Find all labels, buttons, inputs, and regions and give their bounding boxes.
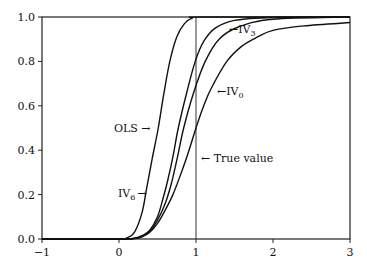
ols-label: OLS → xyxy=(114,122,151,135)
y-tick-label: 0.6 xyxy=(18,100,36,113)
true-value-label: ← True value xyxy=(201,152,273,165)
iv0-label: ←IV0 xyxy=(217,85,244,100)
x-tick-label: 3 xyxy=(347,246,354,259)
y-tick-label: 0.0 xyxy=(18,233,36,246)
x-tick-label: 1 xyxy=(193,246,200,259)
iv6-label: IV6→ xyxy=(118,187,147,202)
chart: 0.00.20.40.60.81.0 −10123 OLS → ←IV3 ←IV… xyxy=(0,0,367,271)
y-axis-ticks: 0.00.20.40.60.81.0 xyxy=(18,11,43,246)
x-tick-label: 0 xyxy=(116,246,123,259)
y-tick-label: 1.0 xyxy=(18,11,36,24)
y-tick-label: 0.8 xyxy=(18,55,36,68)
y-tick-label: 0.4 xyxy=(18,144,36,157)
x-tick-label: 2 xyxy=(270,246,277,259)
y-tick-label: 0.2 xyxy=(18,189,36,202)
x-tick-label: −1 xyxy=(34,246,50,259)
x-axis-ticks: −10123 xyxy=(34,239,354,259)
iv3-label: ←IV3 xyxy=(229,23,256,38)
